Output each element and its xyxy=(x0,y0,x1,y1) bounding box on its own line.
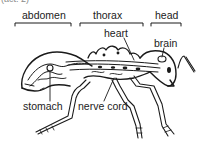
ant-illustration xyxy=(0,0,204,154)
label-abdomen: abdomen xyxy=(22,10,66,21)
label-nerve-cord: nerve cord xyxy=(78,101,128,112)
label-brain: brain xyxy=(154,38,177,49)
label-thorax: thorax xyxy=(93,10,122,21)
head-outline xyxy=(140,51,176,86)
bracket-abdomen xyxy=(15,23,71,26)
label-head: head xyxy=(155,10,178,21)
label-heart: heart xyxy=(104,28,128,39)
label-stomach: stomach xyxy=(23,101,63,112)
bracket-head xyxy=(151,23,181,26)
antenna xyxy=(178,56,195,72)
bracket-thorax xyxy=(80,23,143,26)
nerve-cord-leader xyxy=(104,78,114,101)
